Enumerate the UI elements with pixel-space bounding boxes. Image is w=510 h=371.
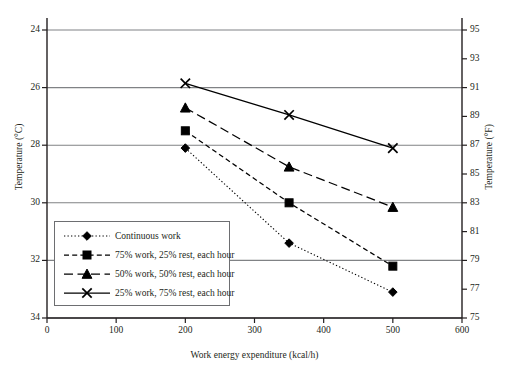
legend-label-0: Continuous work bbox=[113, 231, 181, 241]
legend-label-3: 25% work, 75% rest, each hour bbox=[113, 288, 235, 298]
x-axis-title: Work energy expenditure (kcal/h) bbox=[47, 350, 462, 360]
y-right-tick-9: 77 bbox=[470, 283, 496, 293]
y-left-tick-0: 24 bbox=[14, 24, 40, 34]
series-3 bbox=[181, 79, 398, 153]
legend-marker-triangle-icon bbox=[61, 265, 113, 283]
legend-label-1: 75% work, 25% rest, each hour bbox=[113, 250, 235, 260]
y-right-tick-5: 85 bbox=[470, 168, 496, 178]
y-right-tick-2: 91 bbox=[470, 82, 496, 92]
y-left-tick-5: 34 bbox=[14, 312, 40, 322]
y-right-tick-10: 75 bbox=[470, 312, 496, 322]
x-tick-0: 0 bbox=[27, 325, 67, 335]
legend-item-1: 75% work, 25% rest, each hour bbox=[55, 245, 229, 264]
y-right-tick-3: 89 bbox=[470, 110, 496, 120]
legend-item-2: 50% work, 50% rest, each hour bbox=[55, 264, 229, 283]
legend-item-0: Continuous work bbox=[55, 226, 229, 245]
chart-figure: Temperature (°C) Temperature (°F) Work e… bbox=[0, 0, 510, 371]
plot-canvas bbox=[0, 0, 510, 371]
legend-label-2: 50% work, 50% rest, each hour bbox=[113, 269, 235, 279]
chart-legend: Continuous work75% work, 25% rest, each … bbox=[54, 221, 230, 306]
legend-marker-diamond-icon bbox=[61, 227, 113, 245]
y-right-tick-4: 87 bbox=[470, 139, 496, 149]
y-right-tick-7: 81 bbox=[470, 226, 496, 236]
x-tick-4: 400 bbox=[304, 325, 344, 335]
y-right-tick-1: 93 bbox=[470, 53, 496, 63]
y-left-tick-3: 30 bbox=[14, 197, 40, 207]
y-right-tick-8: 79 bbox=[470, 254, 496, 264]
y-left-tick-4: 32 bbox=[14, 254, 40, 264]
legend-marker-square-icon bbox=[61, 246, 113, 264]
x-tick-2: 200 bbox=[165, 325, 205, 335]
y-right-tick-6: 83 bbox=[470, 197, 496, 207]
x-tick-6: 600 bbox=[442, 325, 482, 335]
y-right-tick-0: 95 bbox=[470, 24, 496, 34]
legend-marker-cross-icon bbox=[61, 284, 113, 302]
x-tick-3: 300 bbox=[235, 325, 275, 335]
x-tick-1: 100 bbox=[96, 325, 136, 335]
x-tick-5: 500 bbox=[373, 325, 413, 335]
series-2 bbox=[180, 103, 397, 212]
y-left-tick-2: 28 bbox=[14, 139, 40, 149]
legend-item-3: 25% work, 75% rest, each hour bbox=[55, 283, 229, 302]
y-left-tick-1: 26 bbox=[14, 82, 40, 92]
